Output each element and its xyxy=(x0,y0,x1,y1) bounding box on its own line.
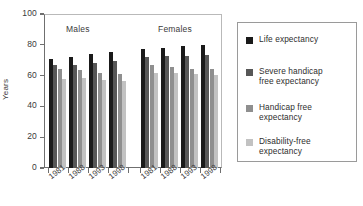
x-tick xyxy=(128,168,129,173)
y-axis-label-text: Years xyxy=(1,79,10,100)
bar xyxy=(174,73,178,168)
legend-label: Disability-free expectancy xyxy=(259,137,311,156)
bar-cluster-males-1993 xyxy=(88,14,108,168)
legend-item-1[interactable]: Life expectancy xyxy=(246,35,318,45)
y-tick-label: 0 xyxy=(32,162,37,172)
bar-cluster-males-1998 xyxy=(108,14,128,168)
bar xyxy=(154,73,158,168)
y-tick-label: 100 xyxy=(22,8,37,18)
y-tick-label: 80 xyxy=(27,39,37,49)
bar xyxy=(62,79,66,168)
legend-swatch-icon xyxy=(246,139,253,146)
legend-swatch-icon xyxy=(246,69,253,76)
bar xyxy=(194,74,198,168)
y-axis-label: Years xyxy=(1,51,10,72)
plot-area: Years 020406080100 MalesFemales 19811988… xyxy=(0,0,228,206)
bar-group-females xyxy=(140,14,220,168)
legend-swatch-icon xyxy=(246,105,253,112)
legend-item-4[interactable]: Disability-free expectancy xyxy=(246,137,311,156)
legend-box: Life expectancySevere handicap free expe… xyxy=(237,22,357,162)
bar xyxy=(82,78,86,168)
group-title-males: Males xyxy=(66,24,90,34)
legend-label: Life expectancy xyxy=(259,35,318,45)
bar-cluster-females-1998 xyxy=(200,14,220,168)
bar xyxy=(102,80,106,168)
x-tick xyxy=(220,168,221,173)
health-expectancy-bar-chart: Years 020406080100 MalesFemales 19811988… xyxy=(0,0,363,206)
legend-item-2[interactable]: Severe handicap free expectancy xyxy=(246,67,323,86)
bar-group-males xyxy=(48,14,128,168)
legend-label: Handicap free expectancy xyxy=(259,103,312,122)
bars-layer xyxy=(44,14,222,168)
bar-cluster-males-1988 xyxy=(68,14,88,168)
bar-cluster-males-1981 xyxy=(48,14,68,168)
y-tick-label: 20 xyxy=(27,131,37,141)
bar xyxy=(214,75,218,168)
legend-label: Severe handicap free expectancy xyxy=(259,67,323,86)
y-tick-label: 60 xyxy=(27,70,37,80)
y-tick-label: 40 xyxy=(27,100,37,110)
legend-item-3[interactable]: Handicap free expectancy xyxy=(246,103,312,122)
group-title-females: Females xyxy=(158,24,192,34)
bar-cluster-females-1993 xyxy=(180,14,200,168)
bar-cluster-females-1981 xyxy=(140,14,160,168)
legend-swatch-icon xyxy=(246,37,253,44)
bar-cluster-females-1988 xyxy=(160,14,180,168)
bar xyxy=(122,81,126,168)
